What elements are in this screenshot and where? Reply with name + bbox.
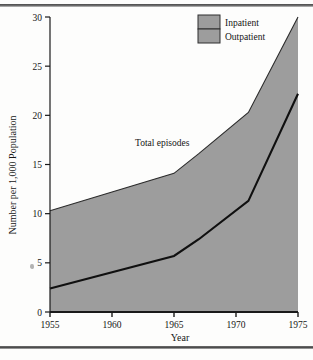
legend-label-inpatient: Inpatient xyxy=(225,18,259,28)
y-tick-label: 25 xyxy=(33,62,43,72)
y-tick-label: 0 xyxy=(37,308,42,318)
x-tick-label: 1970 xyxy=(227,320,246,330)
y-tick-label: 15 xyxy=(33,160,43,170)
x-tick-label: 1960 xyxy=(103,320,122,330)
x-axis-ticks: 19551960196519701975 xyxy=(41,312,308,330)
chart-plot-area: 051015202530 19551960196519701975 Number… xyxy=(0,0,313,346)
legend-swatch-outpatient xyxy=(198,29,220,43)
y-axis-label: Number per 1,000 Population xyxy=(7,116,18,235)
annotation-total-episodes: Total episodes xyxy=(135,138,190,148)
y-tick-label: 20 xyxy=(33,111,43,121)
chart-legend: Inpatient Outpatient xyxy=(198,15,265,43)
legend-label-outpatient: Outpatient xyxy=(225,32,265,42)
bottom-divider-rule xyxy=(0,346,313,349)
x-tick-label: 1965 xyxy=(165,320,184,330)
chart-svg: 051015202530 19551960196519701975 Number… xyxy=(0,0,313,346)
scan-artifact-mark xyxy=(30,264,34,269)
figure-container: 051015202530 19551960196519701975 Number… xyxy=(0,0,313,360)
y-tick-label: 30 xyxy=(33,13,43,23)
y-axis-ticks: 051015202530 xyxy=(33,13,51,318)
legend-swatch-inpatient xyxy=(198,15,220,29)
x-tick-label: 1955 xyxy=(41,320,60,330)
y-tick-label: 10 xyxy=(33,209,43,219)
x-tick-label: 1975 xyxy=(289,320,308,330)
x-axis-label: Year xyxy=(171,332,190,343)
y-tick-label: 5 xyxy=(37,258,42,268)
